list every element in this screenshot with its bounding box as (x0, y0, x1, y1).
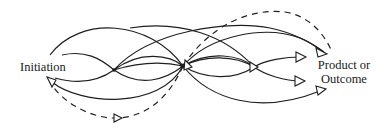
curve-hub-b-to-product-top (183, 32, 323, 66)
curve-initiation-lower-arc (52, 66, 183, 99)
curve-hub-b-to-hub-c-upper (183, 58, 254, 67)
product-outcome-label: Product or Outcome (314, 58, 374, 86)
arrowhead-initiation-icon (47, 77, 56, 87)
arrowhead-product-bottom-icon (316, 86, 326, 95)
arrowhead-product-upper-icon (296, 52, 306, 62)
arrowhead-dashed-lower-icon (114, 114, 122, 122)
curve-hub-a-mid (114, 63, 183, 70)
junction-node-1 (112, 68, 116, 72)
arrowhead-product-top-icon (316, 48, 327, 57)
product-outcome-line-1: Product or (314, 58, 374, 72)
diagram-canvas: Initiation Product or Outcome (0, 0, 389, 130)
curve-hub-c-to-product-lower (254, 67, 301, 81)
arrowhead-hub-3-icon (250, 62, 258, 72)
initiation-label: Initiation (20, 60, 66, 74)
arrowhead-product-lower-icon (295, 76, 305, 86)
product-outcome-line-2: Outcome (314, 72, 374, 86)
curve-hub-c-to-product-upper (254, 57, 302, 67)
curve-hub-b-to-hub-c-lower (183, 66, 254, 77)
